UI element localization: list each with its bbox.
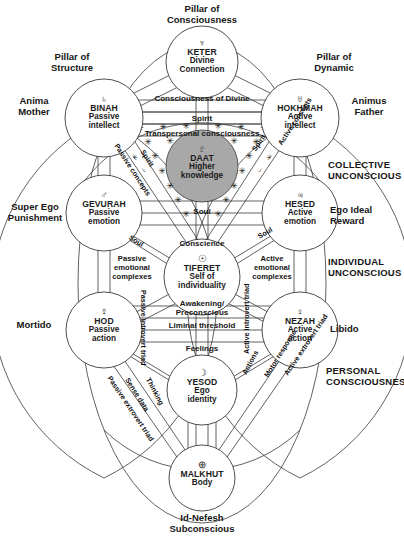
path-passive-introvert-triad: Passive introvert triad <box>139 290 148 366</box>
path-active-introvert-triad: Active introvert triad <box>242 284 251 354</box>
side-label-libido: Libido <box>330 324 402 335</box>
svg-text:✳: ✳ <box>174 195 182 205</box>
band-conscience: Conscience <box>152 240 252 249</box>
sephira-yesod[interactable]: ☽ YESOD Ego identity <box>166 368 238 405</box>
tiferet-desc2: individuality <box>158 282 246 291</box>
sephira-keter[interactable]: ♆ KETER Divine Connection <box>162 38 242 75</box>
individual-line2: UNCONSCIOUS <box>328 268 404 279</box>
side-label-individual-unconscious: INDIVIDUAL UNCONSCIOUS <box>328 257 404 278</box>
sephira-nezah[interactable]: ♀ NEZAH Active action <box>264 307 336 344</box>
path-active-emotional-complexes: Active emotional complexes <box>240 255 304 282</box>
svg-text:✳: ✳ <box>162 209 170 219</box>
pillar-left-label: Pillar of Structure <box>28 52 116 73</box>
daat-desc2: knowledge <box>166 172 238 181</box>
keter-desc2: Connection <box>162 66 242 75</box>
libido-line1: Libido <box>330 324 402 335</box>
caption-line2: Subconscious <box>142 524 262 535</box>
sephira-hesed[interactable]: ♃ HESED Active emotion <box>262 190 338 227</box>
gevurah-desc2: emotion <box>64 218 144 227</box>
animus-line2: Father <box>336 107 402 118</box>
yesod-desc2: identity <box>166 396 238 405</box>
band-feelings: Feelings <box>166 345 238 354</box>
tree-of-life-diagram: ✳✳✳ ✳✳✳ ✳✳ ✳✳✳ ✳✳✳ ✳✳ ✳✳ ✳✳ ✳✳ ✳✳ ✳✳ ✳✳ … <box>0 0 404 537</box>
caption-id-nefesh: Id-Nefesh Subconscious <box>142 513 262 534</box>
active-emot-l3: complexes <box>240 273 304 282</box>
passive-emot-l3: complexes <box>100 273 164 282</box>
personal-line2: CONSCIOUSNESS <box>326 377 404 388</box>
side-label-anima-mother: Anima Mother <box>2 96 66 117</box>
sephira-malkhut[interactable]: ⊕ MALKHUT Body <box>164 460 240 488</box>
side-label-mortido: Mortido <box>2 320 66 331</box>
svg-text:✳: ✳ <box>234 209 242 219</box>
side-label-collective-unconscious: COLLECTIVE UNCONSCIOUS <box>328 160 404 181</box>
superego-line2: Punishment <box>0 213 70 224</box>
pillar-right-line2: Dynamic <box>290 63 378 74</box>
malkhut-desc1: Body <box>164 479 240 488</box>
svg-text:✳: ✳ <box>245 151 253 161</box>
side-label-super-ego-punishment: Super Ego Punishment <box>0 202 70 223</box>
sephira-tiferet[interactable]: ☉ TIFERET Self of individuality <box>158 254 246 291</box>
svg-text:✳: ✳ <box>230 181 238 191</box>
collective-line2: UNCONSCIOUS <box>328 171 404 182</box>
mortido-line1: Mortido <box>2 320 66 331</box>
band-preconscious: Preconscious <box>148 309 256 318</box>
svg-text:✳: ✳ <box>266 153 274 163</box>
egoideal-line2: Reward <box>330 216 402 227</box>
sephira-daat[interactable]: ♇ DAAT Higher knowledge <box>166 144 238 181</box>
anima-line2: Mother <box>2 107 66 118</box>
side-label-ego-ideal-reward: Ego Ideal Reward <box>330 205 402 226</box>
sephira-gevurah[interactable]: ♂ GEVURAH Passive emotion <box>64 190 144 227</box>
svg-text:✳: ✳ <box>171 223 179 233</box>
svg-text:✳: ✳ <box>222 195 230 205</box>
svg-text:✳: ✳ <box>238 166 246 176</box>
pillar-right-label: Pillar of Dynamic <box>290 52 378 73</box>
hod-desc2: action <box>68 335 140 344</box>
band-consciousness-of-divine: Consciousness of Divine <box>122 95 282 104</box>
pillar-top-label: Pillar of Consciousness <box>152 4 252 25</box>
sephira-hod[interactable]: ☿ HOD Passive action <box>68 307 140 344</box>
hesed-desc2: emotion <box>262 218 338 227</box>
pillar-top-line2: Consciousness <box>152 15 252 26</box>
svg-text:✳: ✳ <box>250 181 258 191</box>
path-passive-emotional-complexes: Passive emotional complexes <box>100 255 164 282</box>
nezah-desc2: action <box>264 335 336 344</box>
svg-text:✳: ✳ <box>166 181 174 191</box>
side-label-personal-consciousness: PERSONAL CONSCIOUSNESS <box>326 366 404 387</box>
band-spirit: Spirit <box>152 115 252 124</box>
side-label-animus-father: Animus Father <box>336 96 402 117</box>
band-soul: Soul <box>172 208 232 217</box>
pillar-left-line2: Structure <box>28 63 116 74</box>
